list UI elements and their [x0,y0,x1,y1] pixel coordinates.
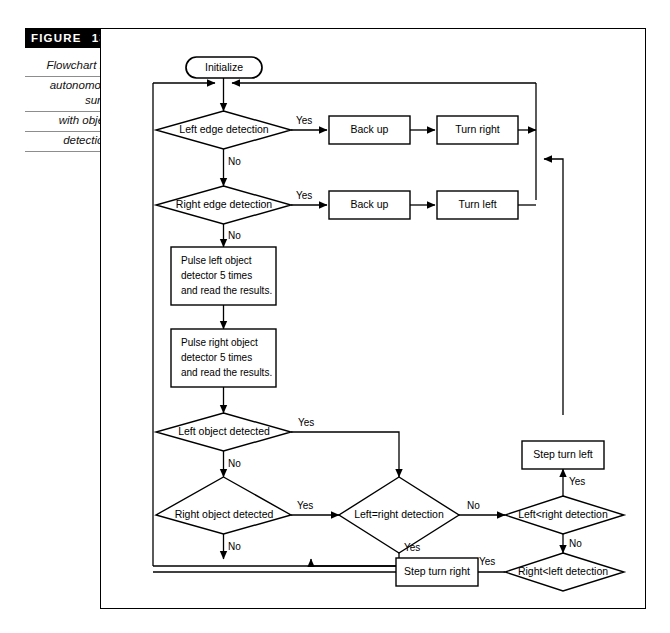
node-step-turn-right-label: Step turn right [404,565,470,577]
conn-leftobject-yes [291,432,399,477]
edge-label-left-object-yes: Yes [298,417,314,428]
edge-label-left-edge-no: No [228,156,241,167]
edge-label-right-lt-left-yes: Yes [479,556,495,567]
node-turn-right-label: Turn right [455,123,500,135]
node-pulse-right-line3: and read the results. [181,367,272,378]
edge-label-left-edge-yes: Yes [296,115,312,126]
node-right-edge-detection-label: Right edge detection [176,198,272,210]
edge-label-left-lt-right-yes: Yes [569,476,585,487]
node-left-object-detected-label: Left object detected [178,425,270,437]
conn-stepturnleft-feedback [544,159,563,415]
edge-label-right-edge-yes: Yes [296,190,312,201]
node-pulse-right-line2: detector 5 times [181,352,252,363]
node-back-up-2-label: Back up [351,198,389,210]
figure-page: FIGURE13-12 Flowchart for autonomous sum… [0,0,670,633]
node-left-lt-right-label: Left<right detection [518,508,608,520]
node-pulse-right-line1: Pulse right object [181,337,258,348]
node-right-object-detected-label: Right object detected [175,508,274,520]
node-turn-left-label: Turn left [458,198,496,210]
figure-label-block: FIGURE13-12 Flowchart for autonomous sum… [25,28,103,174]
edge-label-right-object-yes: Yes [297,500,313,511]
node-right-lt-left-label: Right<left detection [518,565,608,577]
flowchart-frame: Initialize Left edge detection Right edg… [100,28,646,609]
conn-lefteqright-yes [311,553,399,566]
flowchart-svg: Initialize Left edge detection Right edg… [101,29,644,607]
node-left-eq-right-label: Left=right detection [354,508,444,520]
node-left-edge-detection-label: Left edge detection [179,123,268,135]
edge-label-left-lt-right-no: No [569,538,582,549]
edge-label-left-eq-right-no: No [467,500,480,511]
edge-label-right-object-no: No [228,541,241,552]
node-pulse-left-line2: detector 5 times [181,270,252,281]
figure-banner-word: FIGURE [31,32,82,44]
edge-label-right-edge-no: No [228,230,241,241]
node-pulse-left-line1: Pulse left object [181,255,252,266]
edge-label-left-object-no: No [228,458,241,469]
node-initialize-label: Initialize [205,61,243,73]
edge-label-left-eq-right-yes: Yes [404,542,420,553]
node-pulse-left-line3: and read the results. [181,285,272,296]
node-back-up-1-label: Back up [351,123,389,135]
node-right-object-detected[interactable] [156,477,291,534]
node-step-turn-left-label: Step turn left [533,448,593,460]
